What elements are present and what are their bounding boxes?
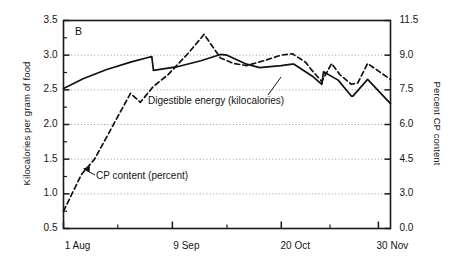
- plot-canvas: [0, 0, 451, 269]
- chart-figure: Kilocalories per gram of food Percent CP…: [0, 0, 451, 269]
- annotation-cp-content: CP content (percent): [96, 170, 188, 181]
- annotation-digestible-energy: Digestible energy (kilocalories): [148, 95, 284, 106]
- leader-line-digestible-energy: [268, 77, 281, 95]
- series-cp-content-line: [64, 34, 391, 211]
